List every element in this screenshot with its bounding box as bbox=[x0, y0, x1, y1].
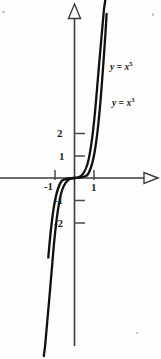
right-arrowhead-icon bbox=[144, 173, 158, 184]
curve-label-quintic: y = x5 bbox=[110, 62, 132, 72]
function-graph-figure: 2 1 -1 -2 -1 1 y = x5 y = x3 bbox=[0, 0, 161, 359]
scan-artifact-topright bbox=[152, 13, 154, 16]
x-tick-label-neg1: -1 bbox=[44, 180, 53, 192]
x-tick-label-1: 1 bbox=[91, 181, 96, 193]
y-tick-label-neg1: -1 bbox=[54, 194, 63, 206]
y-tick-label-2: 2 bbox=[57, 127, 62, 139]
curve-label-cubic-exponent: 3 bbox=[131, 96, 134, 103]
y-tick-label-neg2: -2 bbox=[54, 217, 63, 229]
scan-artifact-topleft bbox=[2, 11, 5, 13]
curve-label-cubic: y = x3 bbox=[112, 98, 134, 108]
plot-canvas bbox=[0, 0, 161, 359]
up-arrowhead-icon bbox=[69, 4, 81, 19]
curve-label-quintic-exponent: 5 bbox=[129, 60, 132, 67]
scan-artifact-bottomright bbox=[136, 332, 138, 334]
curve-label-cubic-base: y = x bbox=[112, 98, 131, 108]
y-tick-label-1: 1 bbox=[59, 150, 64, 162]
curve-label-quintic-base: y = x bbox=[110, 62, 129, 72]
